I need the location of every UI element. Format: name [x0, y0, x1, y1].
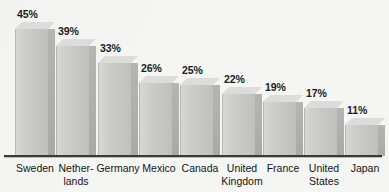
- bar-side-face: [296, 102, 303, 156]
- category-label-line: Kingdom: [216, 175, 268, 188]
- bar-value-label: 25%: [182, 64, 203, 76]
- bar-value-label: 26%: [141, 62, 162, 74]
- bar-top-face: [304, 101, 344, 108]
- bar-value-label: 22%: [224, 73, 245, 85]
- bar-side-face: [131, 63, 138, 156]
- bar-united-states: [304, 101, 344, 156]
- bar-side-face: [213, 85, 220, 156]
- bar-side-face: [172, 83, 179, 156]
- bar-netherlands: [56, 39, 96, 156]
- bar-front-face: [56, 46, 90, 156]
- bar-front-face: [139, 83, 173, 156]
- bar-top-face: [222, 87, 262, 94]
- plot-area: 45%39%33%26%25%22%19%17%11%: [0, 0, 389, 157]
- bar-top-face: [180, 78, 220, 85]
- bar-top-face: [139, 76, 179, 83]
- bar-side-face: [337, 108, 344, 156]
- bar-front-face: [98, 63, 132, 156]
- bar-top-face: [263, 95, 303, 102]
- bar-sweden: [15, 22, 55, 156]
- category-label-line: States: [298, 175, 350, 188]
- bar-value-label: 33%: [100, 42, 121, 54]
- bar-front-face: [15, 29, 49, 156]
- bar-mexico: [139, 76, 179, 156]
- bar-front-face: [180, 85, 214, 156]
- category-axis: SwedenNether-landsGermanyMexicoCanadaUni…: [0, 160, 389, 192]
- category-label-line: Japan: [339, 162, 389, 175]
- bar-value-label: 17%: [306, 87, 327, 99]
- bar-canada: [180, 78, 220, 156]
- bar-value-label: 11%: [347, 104, 367, 116]
- bar-united-kingdom: [222, 87, 262, 156]
- bar-france: [263, 95, 303, 156]
- bar-front-face: [345, 125, 379, 156]
- category-label-japan: Japan: [339, 162, 389, 175]
- bar-side-face: [89, 46, 96, 156]
- bar-value-label: 45%: [17, 8, 38, 20]
- bar-side-face: [48, 29, 55, 156]
- bar-front-face: [263, 102, 297, 156]
- bar-front-face: [222, 94, 256, 156]
- bar-top-face: [98, 56, 138, 63]
- bar-germany: [98, 56, 138, 156]
- bar-top-face: [345, 118, 385, 125]
- bar-chart: 45%39%33%26%25%22%19%17%11% SwedenNether…: [0, 0, 389, 192]
- bar-front-face: [304, 108, 338, 156]
- bar-side-face: [255, 94, 262, 156]
- bar-value-label: 39%: [58, 25, 79, 37]
- axis-baseline: [4, 155, 382, 157]
- bar-top-face: [56, 39, 96, 46]
- bar-value-label: 19%: [265, 81, 286, 93]
- bar-japan: [345, 118, 385, 156]
- category-label-line: lands: [50, 175, 102, 188]
- bar-side-face: [378, 125, 385, 156]
- bar-top-face: [15, 22, 55, 29]
